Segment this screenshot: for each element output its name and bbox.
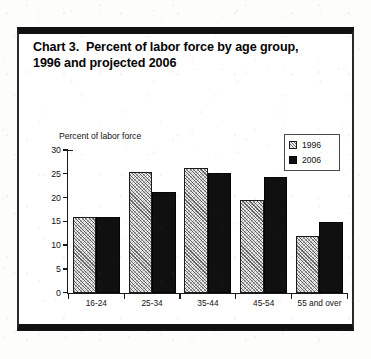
x-axis-tick-label: 35-44 — [180, 298, 236, 308]
bar-2006 — [264, 177, 288, 293]
legend-item-label: 2006 — [302, 155, 321, 165]
bar-2006 — [208, 173, 232, 292]
y-axis-tick — [63, 173, 68, 174]
bar-1996 — [184, 168, 208, 293]
y-axis-tick-label: 15 — [21, 216, 61, 226]
hatched-swatch-icon — [289, 141, 297, 149]
bar-group — [180, 150, 236, 293]
bar-groups — [68, 150, 347, 293]
bar-2006 — [152, 192, 176, 293]
y-axis-tick — [63, 221, 68, 222]
bar-group — [68, 150, 124, 293]
bar-group — [236, 150, 292, 293]
y-axis-tick-label: 25 — [21, 169, 61, 179]
bar-group — [124, 150, 180, 293]
x-axis-line — [67, 293, 348, 294]
y-axis-tick-label: 20 — [21, 193, 61, 203]
y-axis-title: Percent of labor force — [59, 131, 141, 141]
y-axis-tick-label: 30 — [21, 145, 61, 155]
bar-1996 — [73, 217, 97, 293]
legend-item: 2006 — [289, 154, 334, 166]
solid-black-swatch-icon — [289, 156, 297, 164]
legend-item-label: 1996 — [302, 140, 321, 150]
bar-1996 — [296, 236, 320, 293]
x-axis-tick-label: 25-34 — [124, 298, 180, 308]
bar-group — [292, 150, 348, 293]
chart-legend: 1996 2006 — [284, 134, 340, 171]
y-axis-tick — [63, 244, 68, 245]
y-axis-tick-label: 0 — [21, 288, 61, 298]
x-axis-tick-label: 55 and over — [292, 298, 348, 308]
bar-2006 — [96, 217, 120, 293]
y-axis-tick — [63, 197, 68, 198]
bar-2006 — [319, 222, 343, 293]
y-axis-tick — [63, 149, 68, 150]
chart-plot-area: Percent of labor force 302520151050 16-2… — [19, 34, 352, 324]
x-axis-tick-label: 45-54 — [236, 298, 292, 308]
y-axis-tick-label: 5 — [21, 264, 61, 274]
y-axis-tick — [63, 268, 68, 269]
x-axis-tick-label: 16-24 — [68, 298, 124, 308]
y-axis-tick-label: 10 — [21, 240, 61, 250]
bar-1996 — [129, 172, 153, 292]
legend-item: 1996 — [289, 139, 334, 151]
document-page-frame: Chart 3. Percent of labor force by age g… — [17, 27, 354, 331]
bar-1996 — [240, 200, 264, 293]
